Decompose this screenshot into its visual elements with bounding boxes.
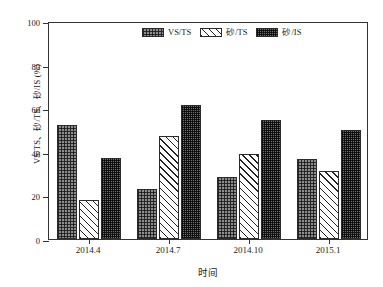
bar [101, 158, 121, 239]
y-tick-label: 0 [36, 236, 40, 246]
y-tick [43, 154, 49, 155]
bar [239, 154, 259, 239]
bar [297, 159, 317, 239]
y-tick-label: 20 [32, 192, 41, 202]
x-tick-label: 2014.7 [156, 245, 181, 255]
bar [319, 171, 339, 239]
legend-item: 砂/IS [256, 28, 301, 37]
y-tick [43, 110, 49, 111]
legend-label: 砂/TS [226, 28, 247, 37]
x-tick-label: 2014.4 [76, 245, 101, 255]
y-tick-label: 100 [27, 18, 40, 28]
legend-item: VS/TS [142, 28, 191, 37]
x-tick [169, 239, 170, 244]
x-axis-title: 时间 [48, 265, 368, 279]
bar [159, 136, 179, 239]
x-tick-label: 2015.1 [316, 245, 341, 255]
chart-figure: VS/TS、砂/TS、砂/IS (%) 时间 020406080100 2014… [0, 0, 383, 287]
x-tick-label: 2014.10 [233, 245, 262, 255]
legend-swatch-icon [256, 28, 278, 37]
plot-area: 020406080100 [48, 22, 368, 240]
bar [79, 200, 99, 239]
y-tick [43, 241, 49, 242]
y-tick-label: 40 [32, 149, 41, 159]
x-tick [329, 239, 330, 244]
y-tick [43, 197, 49, 198]
bar [261, 120, 281, 239]
legend-swatch-icon [142, 28, 164, 37]
legend-label: 砂/IS [282, 28, 301, 37]
bar [217, 177, 237, 239]
bar [341, 130, 361, 239]
bar [137, 189, 157, 239]
legend-item: 砂/TS [200, 28, 247, 37]
y-tick [43, 23, 49, 24]
bar [181, 105, 201, 240]
legend-label: VS/TS [168, 28, 191, 37]
bar [57, 125, 77, 239]
y-tick [43, 67, 49, 68]
y-tick-label: 60 [32, 105, 41, 115]
x-tick [249, 239, 250, 244]
y-tick-label: 80 [32, 62, 41, 72]
legend-swatch-icon [200, 28, 222, 37]
chart-legend: VS/TS砂/TS砂/IS [140, 27, 303, 38]
x-tick [89, 239, 90, 244]
